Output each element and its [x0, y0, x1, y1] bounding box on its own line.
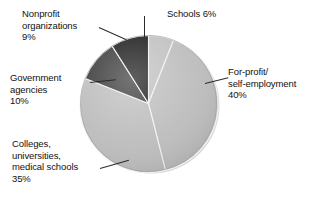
pie-label-government-agencies: Government agencies 10%: [10, 72, 102, 107]
pie-label-for-profit-self-employment: For-profit/ self-employment 40%: [228, 66, 320, 101]
pie-label-nonprofit-organizations: Nonprofit organizations 9%: [22, 8, 108, 43]
leader-line-schools: [144, 16, 145, 37]
pie-chart-figure: Nonprofit organizations 9% Government ag…: [0, 0, 320, 206]
pie-label-schools: Schools 6%: [167, 8, 257, 20]
pie-label-colleges-universities-medical-schools: Colleges, universities, medical schools …: [12, 138, 116, 184]
